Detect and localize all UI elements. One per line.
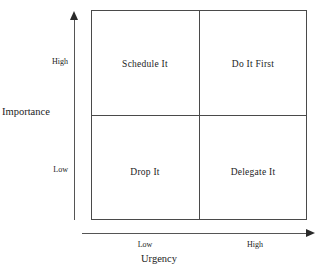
quadrant-matrix-diagram: Schedule It Do It First Drop It Delegate… (0, 0, 323, 272)
quadrant-do-it-first: Do It First (232, 59, 274, 69)
y-axis-tick-high: High (28, 57, 68, 66)
quadrant-delegate-it: Delegate It (231, 167, 276, 177)
x-axis-tick-low: Low (138, 240, 153, 249)
y-axis-line (74, 19, 75, 220)
x-axis-title: Urgency (141, 253, 177, 264)
quadrant-drop-it: Drop It (130, 167, 159, 177)
x-axis-line (82, 233, 308, 234)
y-axis-title: Importance (2, 106, 66, 117)
y-axis-arrowhead-icon (70, 11, 78, 20)
quadrant-schedule-it: Schedule It (122, 59, 168, 69)
y-axis-tick-low: Low (28, 165, 68, 174)
horizontal-divider-line (91, 115, 307, 116)
x-axis-tick-high: High (247, 240, 263, 249)
x-axis-arrowhead-icon (306, 229, 315, 237)
